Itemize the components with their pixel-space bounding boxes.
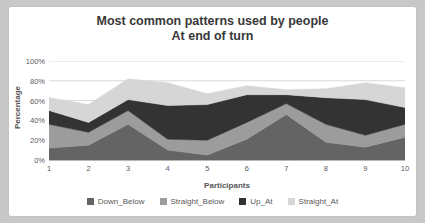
x-tick-label: 6 <box>245 164 249 173</box>
x-axis-title: Participants <box>49 181 405 190</box>
x-tick-label: 4 <box>166 164 170 173</box>
x-tick-label: 9 <box>363 164 367 173</box>
x-tick-label: 7 <box>284 164 288 173</box>
legend-label: Up_At <box>250 197 272 206</box>
x-tick-label: 8 <box>324 164 328 173</box>
window-background: { "window": { "bg_color": "#c8c8c8" }, "… <box>0 0 425 223</box>
legend-swatch-icon <box>87 198 94 205</box>
legend-item-Down_Below[interactable]: Down_Below <box>87 197 145 206</box>
legend-label: Straight_At <box>299 197 339 206</box>
legend-swatch-icon <box>288 198 295 205</box>
x-tick-label: 2 <box>86 164 90 173</box>
y-tick-label: 60% <box>13 97 45 106</box>
legend-item-Up_At[interactable]: Up_At <box>239 197 272 206</box>
legend-label: Down_Below <box>98 197 145 206</box>
y-tick-label: 80% <box>13 77 45 86</box>
chart-title: Most common patterns used by people At e… <box>9 14 416 44</box>
y-tick-label: 40% <box>13 116 45 125</box>
legend-swatch-icon <box>239 198 246 205</box>
chart-title-line2: At end of turn <box>9 29 416 44</box>
plot-svg <box>49 61 405 161</box>
x-tick-label: 3 <box>126 164 130 173</box>
x-tick-label: 5 <box>205 164 209 173</box>
legend-item-Straight_Below[interactable]: Straight_Below <box>160 197 225 206</box>
x-tick-label: 1 <box>47 164 51 173</box>
y-tick-label: 100% <box>13 57 45 66</box>
legend-item-Straight_At[interactable]: Straight_At <box>288 197 339 206</box>
y-tick-label: 0% <box>13 156 45 165</box>
legend: Down_BelowStraight_BelowUp_AtStraight_At <box>9 197 416 206</box>
y-tick-label: 20% <box>13 136 45 145</box>
chart-card[interactable]: Most common patterns used by people At e… <box>8 6 417 217</box>
legend-label: Straight_Below <box>171 197 225 206</box>
chart-title-line1: Most common patterns used by people <box>9 14 416 29</box>
legend-swatch-icon <box>160 198 167 205</box>
x-tick-label: 10 <box>401 164 409 173</box>
